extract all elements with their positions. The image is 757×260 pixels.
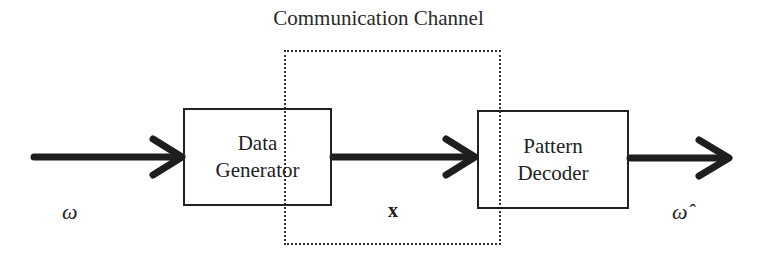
data-generator-label-line1: Data (238, 130, 278, 157)
signal-arrow (333, 139, 475, 175)
output-arrow (630, 140, 729, 176)
output-symbol-omega-hat: ω̂ (672, 199, 688, 225)
data-generator-label-line2: Generator (216, 157, 300, 184)
data-generator-block: Data Generator (183, 108, 332, 206)
pattern-decoder-label-line2: Decoder (517, 160, 588, 187)
pattern-decoder-block: Pattern Decoder (477, 110, 629, 209)
input-arrow (34, 139, 182, 175)
pattern-decoder-label-line1: Pattern (523, 133, 582, 160)
arrows-layer (0, 0, 757, 260)
block-diagram: Communication Channel Data Generator Pat… (0, 0, 757, 260)
input-symbol-omega: ω (62, 199, 78, 225)
signal-symbol-x: x (388, 199, 398, 222)
